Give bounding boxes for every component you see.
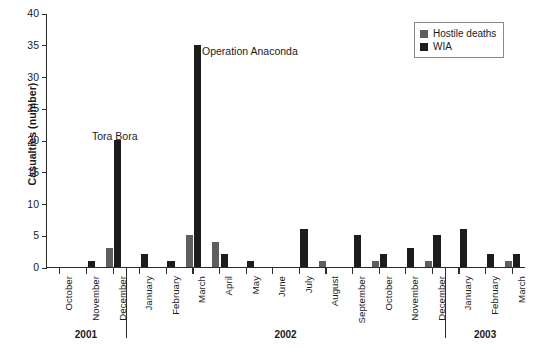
bar-hostile-deaths <box>425 261 432 267</box>
x-axis-tick <box>219 268 220 274</box>
x-axis-tick <box>299 268 300 274</box>
x-axis-tick <box>379 268 380 274</box>
x-axis-tick <box>246 268 247 274</box>
bar-group <box>366 14 393 267</box>
x-axis-tick <box>485 268 486 274</box>
bar-wia <box>300 229 307 267</box>
bar-hostile-deaths <box>106 248 113 267</box>
x-axis-month-label: November <box>90 276 101 321</box>
bar-wia <box>141 254 148 267</box>
year-separator <box>445 268 446 338</box>
y-tick-label: 0 <box>9 261 39 273</box>
bar-group <box>340 14 367 267</box>
bar-wia <box>433 235 440 267</box>
y-tick-label: 10 <box>9 198 39 210</box>
x-axis-year-label: 2002 <box>274 329 296 340</box>
legend-label: WIA <box>433 41 452 52</box>
bar-hostile-deaths <box>186 235 193 267</box>
x-axis-tick <box>458 268 459 274</box>
x-axis-month-label: September <box>356 276 367 323</box>
x-axis-year-label: 2003 <box>474 329 496 340</box>
x-axis-tick <box>192 268 193 274</box>
x-axis-month-label: July <box>303 276 314 293</box>
x-axis-tick <box>405 268 406 274</box>
bar-hostile-deaths <box>372 261 379 267</box>
chart-annotation: Tora Bora <box>92 130 138 142</box>
y-tick-label: 20 <box>9 134 39 146</box>
bar-wia <box>221 254 228 267</box>
legend-swatch-icon <box>420 30 428 38</box>
legend-swatch-icon <box>420 43 428 51</box>
x-axis-month-label: October <box>383 276 394 310</box>
y-tick-label: 15 <box>9 166 39 178</box>
x-axis-month-label: April <box>223 276 234 295</box>
bar-wia <box>460 229 467 267</box>
legend-item-wia: WIA <box>420 40 496 53</box>
x-axis-month-label: March <box>196 276 207 303</box>
bar-wia <box>247 261 254 267</box>
x-axis-month-label: June <box>276 276 287 297</box>
x-axis-tick <box>352 268 353 274</box>
bar-wia <box>487 254 494 267</box>
legend-label: Hostile deaths <box>433 28 496 39</box>
x-axis-tick <box>432 268 433 274</box>
bar-hostile-deaths <box>505 261 512 267</box>
y-tick-label: 5 <box>9 229 39 241</box>
bar-hostile-deaths <box>212 242 219 267</box>
x-axis-month-label: February <box>170 276 181 315</box>
y-tick-label: 35 <box>9 39 39 51</box>
x-axis-tick <box>512 268 513 274</box>
bar-wia <box>88 261 95 267</box>
bar-wia <box>167 261 174 267</box>
bar-wia <box>513 254 520 267</box>
y-tick-label: 25 <box>9 102 39 114</box>
x-axis-tick <box>166 268 167 274</box>
x-axis-tick <box>113 268 114 274</box>
casualties-bar-chart: Casualties (number) 0510152025303540 Oct… <box>0 0 533 349</box>
x-axis-year-label: 2001 <box>75 329 97 340</box>
bar-wia <box>354 235 361 267</box>
x-axis-month-label: March <box>516 276 527 303</box>
x-axis-tick <box>86 268 87 274</box>
x-axis-month-label: May <box>250 276 261 294</box>
year-separator <box>126 268 127 338</box>
y-tick-label: 40 <box>9 7 39 19</box>
chart-annotation: Operation Anaconda <box>202 45 298 57</box>
y-tick-mark <box>42 268 47 269</box>
x-axis-month-label: November <box>409 276 420 321</box>
bar-wia <box>194 45 201 267</box>
x-axis-month-label: October <box>63 276 74 310</box>
x-axis-tick <box>325 268 326 274</box>
x-axis-month-label: February <box>489 276 500 315</box>
bar-wia <box>380 254 387 267</box>
x-axis-month-label: January <box>462 276 473 310</box>
bar-hostile-deaths <box>319 261 326 267</box>
x-axis-tick <box>139 268 140 274</box>
legend-item-hostile-deaths: Hostile deaths <box>420 27 496 40</box>
x-axis-tick <box>59 268 60 274</box>
bar-wia <box>114 140 121 267</box>
bar-wia <box>407 248 414 267</box>
x-axis-month-label: August <box>329 276 340 306</box>
y-tick-label: 30 <box>9 71 39 83</box>
x-axis-tick <box>272 268 273 274</box>
bar-group <box>313 14 340 267</box>
bar-group <box>153 14 180 267</box>
chart-legend: Hostile deaths WIA <box>414 22 504 58</box>
x-axis-month-label: January <box>143 276 154 310</box>
bar-group <box>47 14 74 267</box>
